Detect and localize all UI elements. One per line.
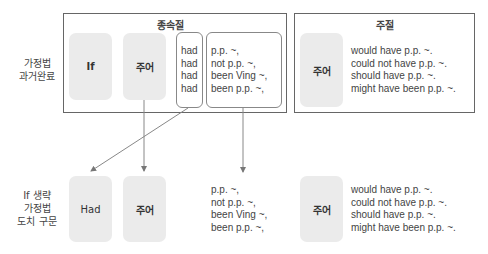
main-line: could not have p.p. ~. (351, 197, 456, 210)
pp-line: been p.p. ~, (211, 222, 267, 235)
inverted-pp-lines: p.p. ~, not p.p. ~, been Ving ~, been p.… (211, 184, 267, 234)
main-line: would have p.p. ~. (351, 184, 456, 197)
main-line: should have p.p. ~. (351, 209, 456, 222)
pp-line: p.p. ~, (211, 184, 267, 197)
main-line: might have been p.p. ~. (351, 222, 456, 235)
pp-line: not p.p. ~, (211, 197, 267, 210)
inverted-main-lines: would have p.p. ~. could not have p.p. ~… (351, 184, 456, 234)
inverted-subject-box: 주어 (123, 176, 166, 242)
inverted-main-subject-box: 주어 (300, 176, 343, 242)
had-box: Had (69, 176, 112, 242)
pp-line: been Ving ~, (211, 209, 267, 222)
arrow-had-to-front (91, 108, 188, 171)
